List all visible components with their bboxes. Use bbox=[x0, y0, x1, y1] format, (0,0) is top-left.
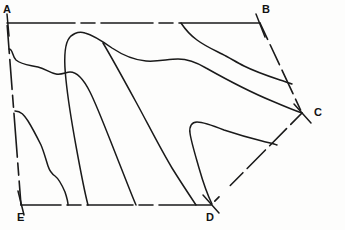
vertex-ticks bbox=[7, 14, 311, 215]
edge-b-c bbox=[260, 23, 302, 113]
contour-mid-descender bbox=[103, 43, 196, 205]
contour-curves bbox=[9, 23, 302, 205]
figure-canvas: A B C D E bbox=[0, 0, 345, 230]
contour-lower-right-lobe bbox=[190, 122, 277, 204]
contour-upper-right-band bbox=[181, 23, 292, 84]
vertex-label-a: A bbox=[3, 4, 11, 15]
cross-section-diagram bbox=[0, 0, 345, 230]
vertex-label-d: D bbox=[206, 212, 214, 223]
boundary-edges bbox=[7, 23, 302, 205]
contour-lower-left-band bbox=[15, 111, 68, 205]
vertex-label-e: E bbox=[17, 212, 24, 223]
tick-mark-b bbox=[256, 14, 265, 37]
edge-c-d bbox=[211, 113, 302, 205]
edge-e-a bbox=[7, 23, 21, 205]
vertex-label-b: B bbox=[262, 4, 270, 15]
contour-central-tongue bbox=[65, 32, 302, 205]
vertex-label-c: C bbox=[314, 107, 322, 118]
